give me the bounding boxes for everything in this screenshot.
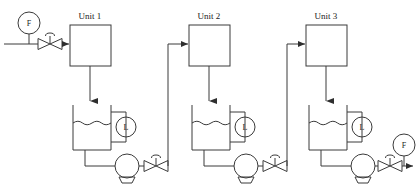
valve-2-body-right <box>275 161 287 172</box>
valve-actuator <box>46 33 55 36</box>
valve-body-right <box>50 39 62 50</box>
valve-1-actuator <box>152 155 161 158</box>
unit-3-box[interactable] <box>306 25 347 66</box>
pump-1[interactable] <box>115 154 139 183</box>
pump-3[interactable] <box>351 154 375 183</box>
valve-3-body-left <box>378 161 390 172</box>
valve-1-body-right <box>156 161 168 172</box>
tank-2-outlet-pipe <box>204 150 234 166</box>
tank-1-outlet-pipe <box>85 150 115 166</box>
outlet-flow-indicator <box>393 134 415 166</box>
pump-1-casing <box>115 154 139 178</box>
level-indicator-3-tag: L <box>360 123 365 132</box>
level-indicator-1-tag: L <box>124 123 129 132</box>
pump-3-casing <box>351 154 375 178</box>
unit-1-label: Unit 1 <box>79 11 102 21</box>
tank-1-liquid-level <box>73 121 111 125</box>
tank-1-shell <box>73 105 111 150</box>
process-flow-diagram: Unit 1 Unit 2 Unit 3 F F L L L <box>0 0 417 193</box>
valve-3-actuator <box>386 155 395 158</box>
valve-2-body-left <box>263 161 275 172</box>
valve-3-body-right <box>390 161 402 172</box>
pfd-canvas: Unit 1 Unit 2 Unit 3 F F L L L <box>0 0 417 193</box>
tank-2-shell <box>192 105 230 150</box>
outlet-flow-tag: F <box>402 141 407 150</box>
unit-2-box[interactable] <box>189 25 230 66</box>
stage-1-to-unit-2-riser <box>168 44 188 166</box>
valve-1-body-left <box>144 161 156 172</box>
tank-3-shell <box>309 105 347 150</box>
tank-3-liquid-level <box>309 121 347 125</box>
valve-body-left <box>38 39 50 50</box>
unit-2-label: Unit 2 <box>198 11 221 21</box>
valve-2-actuator <box>271 155 280 158</box>
level-indicator-2-tag: L <box>243 123 248 132</box>
discharge-valve-1[interactable] <box>144 155 168 172</box>
tank-3-outlet-pipe <box>321 150 351 166</box>
pump-2-casing <box>234 154 258 178</box>
discharge-valve-2[interactable] <box>263 155 287 172</box>
outlet-control-valve[interactable] <box>378 155 402 172</box>
unit-3-label: Unit 3 <box>315 11 338 21</box>
inlet-flow-indicator <box>18 12 40 44</box>
inlet-control-valve[interactable] <box>38 33 62 50</box>
tank-2-liquid-level <box>192 121 230 125</box>
stage-2-to-unit-3-riser <box>287 44 305 166</box>
inlet-flow-tag: F <box>27 19 32 28</box>
unit-1-box[interactable] <box>70 25 111 66</box>
pump-2[interactable] <box>234 154 258 183</box>
